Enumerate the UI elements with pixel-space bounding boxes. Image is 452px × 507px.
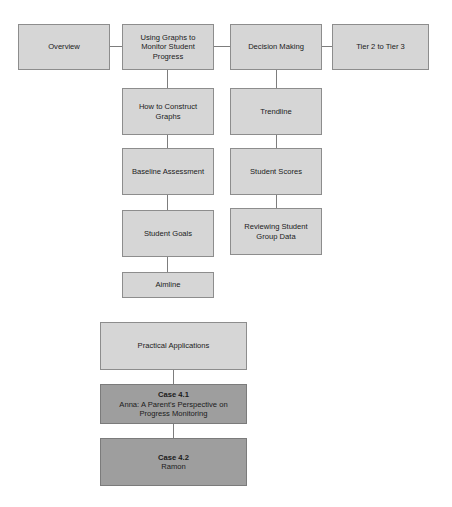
node-baseline-assessment-label: Baseline Assessment — [127, 167, 209, 176]
node-overview-label: Overview — [23, 42, 105, 51]
node-using-graphs-to-monitor-student-progress[interactable]: Using Graphs to Monitor Student Progress — [122, 24, 214, 70]
node-how-to-construct-graphs[interactable]: How to Construct Graphs — [122, 88, 214, 135]
node-student-goals-label: Student Goals — [127, 229, 209, 238]
node-using-graphs-label: Using Graphs to Monitor Student Progress — [127, 33, 209, 61]
connector-using-graphs-to-decision-making — [214, 46, 230, 47]
connector-student-scores-to-reviewing-group-data — [276, 195, 277, 208]
node-case-4-1-label: Anna: A Parent's Perspective on Progress… — [105, 400, 242, 419]
node-overview[interactable]: Overview — [18, 24, 110, 70]
node-decision-making-label: Decision Making — [235, 42, 317, 51]
connector-decision-making-to-tier2-tier3 — [322, 46, 332, 47]
node-reviewing-student-group-data[interactable]: Reviewing Student Group Data — [230, 208, 322, 255]
connector-decision-making-to-trendline — [276, 70, 277, 88]
connector-using-graphs-to-how-to-construct — [167, 70, 168, 88]
node-trendline-label: Trendline — [235, 107, 317, 116]
connector-baseline-to-student-goals — [167, 195, 168, 210]
node-tier-2-to-tier-3-label: Tier 2 to Tier 3 — [337, 42, 424, 51]
node-how-to-construct-graphs-label: How to Construct Graphs — [127, 102, 209, 121]
node-aimline-label: Aimline — [127, 280, 209, 289]
connector-case-4-1-to-case-4-2 — [173, 424, 174, 438]
connector-overview-to-using-graphs — [110, 46, 122, 47]
node-practical-applications-label: Practical Applications — [105, 341, 242, 350]
node-decision-making[interactable]: Decision Making — [230, 24, 322, 70]
node-case-4-2[interactable]: Case 4.2 Ramon — [100, 438, 247, 486]
connector-practical-applications-to-case-4-1 — [173, 370, 174, 384]
node-student-goals[interactable]: Student Goals — [122, 210, 214, 257]
node-case-4-2-heading: Case 4.2 — [105, 453, 242, 463]
node-trendline[interactable]: Trendline — [230, 88, 322, 135]
connector-how-to-construct-to-baseline — [167, 135, 168, 148]
flowchart-canvas: Overview Using Graphs to Monitor Student… — [0, 0, 452, 507]
node-practical-applications[interactable]: Practical Applications — [100, 322, 247, 370]
node-tier-2-to-tier-3[interactable]: Tier 2 to Tier 3 — [332, 24, 429, 70]
node-case-4-2-label: Ramon — [105, 462, 242, 471]
connector-trendline-to-student-scores — [276, 135, 277, 148]
node-baseline-assessment[interactable]: Baseline Assessment — [122, 148, 214, 195]
node-reviewing-student-group-data-label: Reviewing Student Group Data — [235, 222, 317, 241]
node-student-scores[interactable]: Student Scores — [230, 148, 322, 195]
node-student-scores-label: Student Scores — [235, 167, 317, 176]
node-case-4-1-heading: Case 4.1 — [105, 390, 242, 400]
node-case-4-1[interactable]: Case 4.1 Anna: A Parent's Perspective on… — [100, 384, 247, 424]
node-aimline[interactable]: Aimline — [122, 272, 214, 298]
connector-student-goals-to-aimline — [167, 257, 168, 272]
